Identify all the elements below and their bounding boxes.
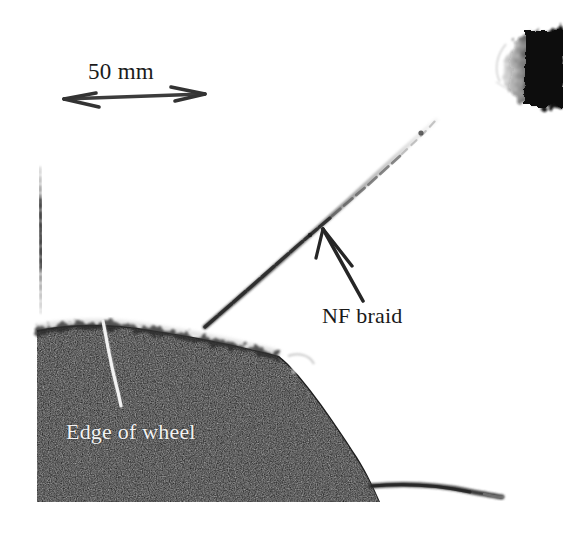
photograph-canvas (0, 0, 563, 535)
vertical-dotted-marker (40, 168, 42, 312)
figure-photograph: 50 mm NF braid Edge of wheel (0, 0, 563, 535)
